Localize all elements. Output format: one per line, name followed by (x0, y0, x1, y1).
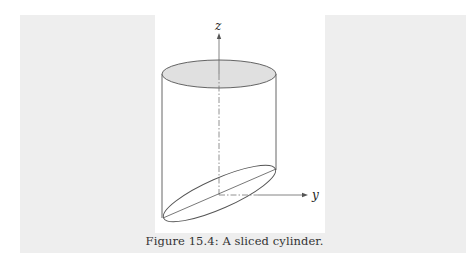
figure-caption: Figure 15.4: A sliced cylinder. (0, 234, 469, 248)
y-axis-label: y (311, 188, 319, 202)
z-axis-label: z (214, 19, 222, 33)
slice-major-axis (163, 169, 276, 218)
y-axis-arrowhead-icon (302, 193, 308, 197)
z-axis-arrowhead-icon (217, 33, 221, 39)
sliced-cylinder-diagram: z y (0, 0, 469, 258)
